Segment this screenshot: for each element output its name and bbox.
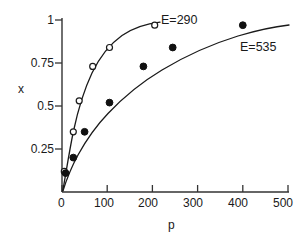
data-point-open	[107, 45, 113, 51]
annotation-e535: E=535	[240, 40, 277, 54]
y-tick-label-1: 1	[40, 13, 54, 27]
y-tick-label-05: 0.5	[20, 99, 54, 113]
x-tick-label-300: 300	[183, 196, 203, 210]
x-tick-label-0: 0	[58, 196, 65, 210]
x-tick-label-100: 100	[94, 196, 114, 210]
data-point-open	[76, 98, 82, 104]
x-axis-title: p	[168, 218, 175, 232]
data-point-filled	[70, 154, 77, 161]
y-tick-label-075: 0.75	[14, 56, 54, 70]
data-point-filled	[140, 63, 147, 70]
chart-figure: 1 0.75 0.5 0.25 0 100 200 300 400 500 x …	[0, 0, 305, 244]
data-point-filled	[62, 170, 69, 177]
x-axis-ticks	[62, 185, 288, 192]
data-point-filled	[106, 99, 113, 106]
annotation-e290: E=290	[161, 13, 198, 27]
series-e290-markers	[61, 22, 157, 174]
x-tick-label-500: 500	[273, 196, 293, 210]
data-point-filled	[81, 128, 88, 135]
data-point-filled	[239, 22, 246, 29]
data-point-open	[70, 129, 76, 135]
y-tick-label-025: 0.25	[14, 142, 54, 156]
x-tick-label-200: 200	[138, 196, 158, 210]
data-point-filled	[169, 44, 176, 51]
series-e535-markers	[62, 22, 246, 177]
data-point-open	[152, 22, 158, 28]
y-axis-ticks	[55, 20, 62, 149]
data-point-open	[90, 63, 96, 69]
x-tick-label-400: 400	[228, 196, 248, 210]
y-axis-title: x	[18, 82, 24, 96]
